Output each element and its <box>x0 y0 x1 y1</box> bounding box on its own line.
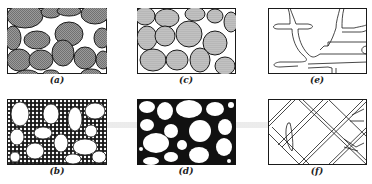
panel-f-label: (f) <box>297 166 337 176</box>
panel-d-label: (d) <box>166 166 206 176</box>
grains-hatched-diagram <box>7 8 107 74</box>
panel-d <box>137 99 236 165</box>
panel-a <box>7 8 107 74</box>
panel-b-label: (b) <box>37 166 77 176</box>
panel-f <box>268 99 367 165</box>
panel-c <box>137 8 236 74</box>
panel-c-label: (c) <box>166 75 206 85</box>
fracture-network-sparse-diagram <box>268 8 367 74</box>
fracture-network-dense-diagram <box>268 99 367 165</box>
grains-in-black-matrix-diagram <box>137 99 236 165</box>
grains-dotted-diagram <box>137 8 236 74</box>
panel-e-label: (e) <box>297 75 337 85</box>
grains-in-fine-matrix-diagram <box>7 99 107 165</box>
panel-e <box>268 8 367 74</box>
panel-a-label: (a) <box>37 75 77 85</box>
panel-b <box>7 99 107 165</box>
